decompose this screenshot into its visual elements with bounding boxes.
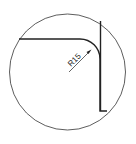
detail-view-drawing: R15 bbox=[0, 0, 136, 144]
part-edge-fillet bbox=[19, 39, 107, 111]
radius-dimension-label: R15 bbox=[66, 51, 83, 68]
detail-circle bbox=[10, 14, 126, 130]
